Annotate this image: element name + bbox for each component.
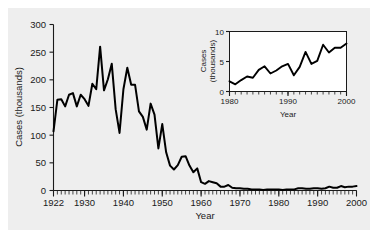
- inset-y-axis-title-line2: (thousands): [208, 40, 217, 83]
- main-y-tick-label: 0: [41, 185, 46, 196]
- inset-chart: 0510 198019902000 Cases (thousands) Year: [199, 28, 356, 120]
- main-x-tick-label: 1940: [113, 197, 134, 208]
- main-x-tick-label: 2000: [346, 197, 367, 208]
- main-x-tick-label: 1970: [229, 197, 250, 208]
- main-x-minor-ticks-group: [54, 191, 357, 195]
- main-y-tick-label: 300: [30, 19, 46, 30]
- inset-x-tick-label: 1980: [221, 97, 239, 106]
- main-x-tick-label: 1990: [307, 197, 328, 208]
- inset-x-tick-label: 1990: [279, 97, 297, 106]
- main-y-tick-label: 50: [35, 157, 46, 168]
- inset-plot-background: [230, 32, 347, 92]
- main-y-ticks-group: 050100150200250300: [30, 19, 53, 196]
- main-x-tick-label: 1960: [191, 197, 212, 208]
- inset-x-axis-title: Year: [280, 110, 297, 119]
- main-x-tick-label: 1930: [74, 197, 95, 208]
- main-x-tick-label: 1922: [43, 197, 64, 208]
- main-x-tick-label: 1950: [152, 197, 173, 208]
- main-y-tick-label: 200: [30, 74, 46, 85]
- main-x-tick-label: 1980: [268, 197, 289, 208]
- inset-y-tick-label: 0: [220, 88, 225, 97]
- inset-y-ticks-group: 0510: [215, 28, 229, 97]
- inset-x-tick-label: 2000: [338, 97, 356, 106]
- main-x-axis-title: Year: [195, 210, 214, 221]
- inset-y-tick-label: 5: [220, 58, 225, 67]
- main-y-axis-title: Cases (thousands): [13, 67, 24, 147]
- pertussis-incidence-chart: 050100150200250300 192219301940195019601…: [0, 0, 378, 245]
- main-y-tick-label: 150: [30, 102, 46, 113]
- inset-y-tick-label: 10: [215, 28, 224, 37]
- main-y-tick-label: 250: [30, 47, 46, 58]
- main-y-tick-label: 100: [30, 130, 46, 141]
- inset-y-axis-title-line1: Cases: [199, 50, 208, 73]
